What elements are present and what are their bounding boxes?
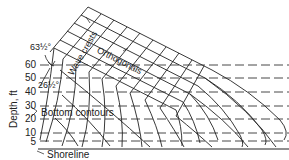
depth-tick-50: 50 [14, 73, 36, 83]
bottom-contours-label: Bottom contours [41, 108, 114, 118]
angle-label-top: 63½° [30, 42, 51, 52]
y-axis-label: Depth, ft [8, 90, 19, 128]
depth-tick-5: 5 [14, 137, 36, 147]
bottom-contour-lines [40, 65, 289, 141]
depth-tick-60: 60 [14, 60, 36, 70]
angle-label-bottom: 26½° [38, 80, 59, 90]
shoreline-label: Shoreline [47, 150, 89, 160]
